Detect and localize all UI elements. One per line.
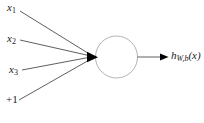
input-label-x1-sub: 1 [12,6,16,15]
output-label: hW,b(x) [171,49,201,62]
input-label-x2: x2 [7,32,16,45]
output-label-sub: W,b [177,54,189,63]
input-line-x3 [22,57,91,70]
output-label-suffix: (x) [188,49,200,61]
input-label-bias-base: +1 [6,93,18,105]
input-label-x3-sub: 3 [14,68,18,77]
neuron-diagram: x1 x2 x3 +1 hW,b(x) [0,0,204,123]
output-arrowhead-icon [160,54,169,61]
input-label-bias: +1 [6,93,18,106]
input-label-x1: x1 [7,1,16,14]
neuron-circle [96,36,138,78]
input-line-bias [19,59,91,100]
input-label-x2-sub: 2 [12,37,16,46]
input-label-x3: x3 [9,63,18,76]
